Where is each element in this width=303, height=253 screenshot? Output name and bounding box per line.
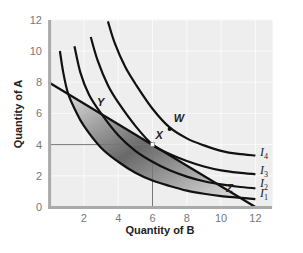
point-label-x: X <box>155 129 164 141</box>
curve-labels: I1I2I3I4 <box>259 145 268 202</box>
y-tick-label: 0 <box>36 201 42 213</box>
indifference-curve-chart: 24681012024681012 YXWZ I1I2I3I4 Quantity… <box>0 0 303 253</box>
x-axis-title: Quantity of B <box>125 224 194 236</box>
x-tick-label: 8 <box>184 212 190 224</box>
x-tick-label: 10 <box>215 212 227 224</box>
y-tick-label: 10 <box>30 45 42 57</box>
x-tick-label: 12 <box>249 212 261 224</box>
y-tick-label: 4 <box>36 139 42 151</box>
point-label-z: Z <box>225 182 234 194</box>
point-label-w: W <box>174 112 186 124</box>
y-axis-title: Quantity of A <box>12 80 24 149</box>
x-tick-label: 6 <box>149 212 155 224</box>
x-tick-label: 2 <box>81 212 87 224</box>
y-tick-label: 6 <box>36 107 42 119</box>
x-tick-label: 4 <box>115 212 121 224</box>
y-tick-label: 2 <box>36 170 42 182</box>
y-tick-label: 8 <box>36 76 42 88</box>
y-tick-label: 12 <box>30 14 42 26</box>
